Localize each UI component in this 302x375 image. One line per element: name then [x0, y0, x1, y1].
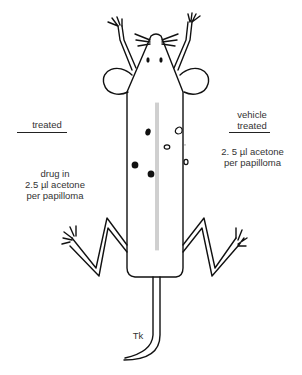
- right-front-leg: [174, 22, 192, 70]
- right-hind-leg: [183, 218, 238, 276]
- left-heading-rule: [17, 132, 67, 133]
- left-line-1: drug in: [5, 168, 105, 179]
- right-line-1: 2. 5 µl acetone: [205, 146, 300, 157]
- right-eye: [159, 57, 162, 63]
- right-heading-2: treated: [227, 120, 277, 131]
- whiskers-right: [162, 34, 178, 46]
- right-heading-rule: [229, 132, 270, 133]
- vehicle-papillomas: [164, 127, 188, 165]
- right-hind-paw: [236, 228, 247, 246]
- right-ear: [180, 68, 209, 94]
- left-heading: treated: [22, 119, 72, 130]
- left-hind-leg: [70, 218, 127, 276]
- tail-label: Tk: [128, 330, 148, 341]
- spine-line: [156, 103, 158, 250]
- left-eye: [146, 57, 149, 63]
- tail: [124, 277, 160, 360]
- left-line-2: 2.5 µl acetone: [5, 179, 105, 190]
- treated-papillomas: [132, 128, 155, 178]
- left-front-leg: [118, 26, 136, 70]
- right-line-2: per papilloma: [205, 157, 300, 168]
- whiskers-left: [135, 34, 150, 46]
- left-line-3: per papilloma: [5, 190, 105, 201]
- right-front-paw: [188, 13, 200, 22]
- right-heading-1: vehicle: [227, 109, 277, 120]
- left-front-paw: [108, 17, 122, 26]
- body-outline: [127, 34, 183, 277]
